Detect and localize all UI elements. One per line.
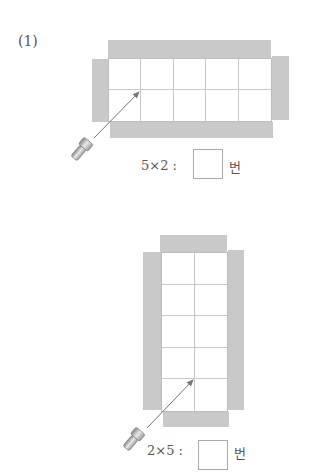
expression-2: 2×5 : <box>147 443 183 458</box>
arrow-2 <box>147 380 193 428</box>
expression-1: 5×2 : <box>141 158 177 173</box>
answer-box-1[interactable] <box>193 149 223 179</box>
arrow-1 <box>94 92 139 138</box>
unit-1: 번 <box>229 157 241 176</box>
punch-tool-icon-2 <box>121 427 145 452</box>
answer-box-2[interactable] <box>198 440 228 470</box>
punch-tool-icon-1 <box>69 137 93 162</box>
unit-2: 번 <box>234 443 246 462</box>
